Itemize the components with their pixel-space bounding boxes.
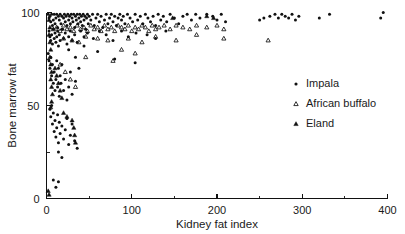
point-african-buffalo: [130, 29, 134, 33]
point-impala: [123, 22, 126, 25]
point-impala: [59, 22, 62, 25]
point-impala: [56, 85, 59, 88]
point-impala: [57, 180, 60, 183]
point-african-buffalo: [133, 25, 137, 29]
legend-label-african-buffalo: African buffalo: [306, 97, 376, 109]
point-impala: [126, 13, 129, 16]
point-impala: [181, 15, 184, 18]
x-tick-label-400: 400: [378, 204, 396, 216]
point-african-buffalo: [99, 29, 103, 33]
point-impala: [50, 13, 53, 16]
point-impala: [111, 20, 114, 23]
legend-item-eland[interactable]: Eland: [294, 117, 334, 129]
point-impala: [62, 89, 65, 92]
point-impala: [67, 18, 70, 21]
point-impala: [77, 17, 80, 20]
point-impala: [117, 17, 120, 20]
point-impala: [190, 18, 193, 21]
point-impala: [54, 22, 57, 25]
point-impala: [379, 17, 382, 20]
point-impala: [54, 17, 57, 20]
point-african-buffalo: [147, 29, 151, 33]
point-impala: [277, 17, 280, 20]
point-eland: [73, 133, 77, 137]
legend-marker-filled-circle: [294, 82, 297, 85]
point-african-buffalo: [106, 38, 110, 42]
point-impala: [220, 13, 223, 16]
point-impala: [64, 128, 67, 131]
point-impala: [55, 35, 58, 38]
point-impala: [60, 124, 63, 127]
point-african-buffalo: [68, 77, 72, 81]
point-impala: [87, 22, 90, 25]
point-african-buffalo: [77, 40, 81, 44]
point-impala: [75, 18, 78, 21]
point-impala: [291, 13, 294, 16]
point-impala: [71, 123, 74, 126]
point-impala: [96, 13, 99, 16]
point-impala: [157, 13, 160, 16]
point-impala: [136, 18, 139, 21]
point-impala: [284, 15, 287, 18]
point-impala: [94, 17, 97, 20]
chart-canvas: 0100200300400050100Kidney fat indexBone …: [0, 0, 405, 234]
point-impala: [146, 17, 149, 20]
legend-label-impala: Impala: [306, 77, 340, 89]
point-african-buffalo: [143, 25, 147, 29]
legend-item-impala[interactable]: Impala: [294, 77, 339, 89]
point-impala: [83, 18, 86, 21]
point-impala: [85, 17, 88, 20]
point-impala: [120, 18, 123, 21]
point-impala: [52, 18, 55, 21]
point-impala: [216, 18, 219, 21]
point-impala: [47, 52, 50, 55]
point-african-buffalo: [194, 33, 198, 37]
point-impala: [144, 13, 147, 16]
point-impala: [57, 151, 60, 154]
point-eland: [50, 100, 54, 104]
point-impala: [262, 17, 265, 20]
point-impala: [105, 13, 108, 16]
point-impala: [65, 98, 68, 101]
point-impala: [139, 15, 142, 18]
point-impala: [52, 111, 55, 114]
point-impala: [71, 93, 74, 96]
point-impala: [131, 20, 134, 23]
point-eland: [49, 77, 53, 81]
point-impala: [294, 18, 297, 21]
point-impala: [103, 18, 106, 21]
point-impala: [194, 13, 197, 16]
point-african-buffalo: [194, 23, 198, 27]
point-impala: [69, 71, 72, 74]
point-impala: [58, 121, 61, 124]
point-african-buffalo: [63, 70, 67, 74]
point-eland: [50, 92, 54, 96]
point-impala: [70, 13, 73, 16]
legend-marker-open-triangle: [294, 102, 298, 106]
point-impala: [53, 13, 56, 16]
legend-item-african-buffalo[interactable]: African buffalo: [294, 97, 376, 109]
point-impala: [77, 67, 80, 70]
point-impala: [328, 13, 331, 16]
point-impala: [52, 178, 55, 181]
point-impala: [58, 18, 61, 21]
point-impala: [76, 147, 79, 150]
legend-marker-filled-triangle: [294, 122, 298, 126]
point-impala: [55, 59, 58, 62]
point-impala: [159, 18, 162, 21]
point-impala: [54, 41, 57, 44]
point-eland: [65, 114, 69, 118]
point-impala: [62, 137, 65, 140]
point-african-buffalo: [181, 25, 185, 29]
point-impala: [106, 22, 109, 25]
point-african-buffalo: [266, 38, 270, 42]
point-impala: [268, 15, 271, 18]
point-impala: [273, 13, 276, 16]
point-impala: [152, 15, 155, 18]
point-impala: [88, 15, 91, 18]
point-impala: [111, 39, 114, 42]
point-impala: [67, 48, 70, 51]
point-african-buffalo: [162, 23, 166, 27]
point-impala: [50, 74, 53, 77]
point-impala: [60, 156, 63, 159]
